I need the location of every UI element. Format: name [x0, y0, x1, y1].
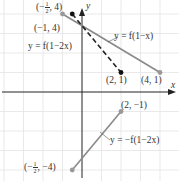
curve-f-1-minus-x	[63, 14, 161, 73]
label-point-4-1: (4, 1)	[141, 76, 162, 86]
curve-f-1-minus-2x	[72, 14, 121, 73]
label-point-2-neg1: (2, −1)	[121, 101, 147, 111]
y-axis-label: y	[86, 2, 90, 12]
x-axis-label: x	[171, 81, 175, 91]
point-neghalf-neg4	[70, 168, 75, 173]
graph-canvas	[0, 0, 179, 181]
label-curve-f-1-minus-x: y = f(1−x)	[114, 32, 153, 42]
point-neghalf-4	[70, 12, 75, 17]
label-curve-f-1-minus-2x: y = f(1−2x)	[28, 42, 72, 52]
label-point-2-1: (2, 1)	[106, 76, 127, 86]
label-curve-neg-f-1-minus-2x: y = −f(1−2x)	[110, 136, 159, 146]
y-axis-arrow-icon	[79, 8, 85, 16]
label-point-neg1-4: (−1, 4)	[34, 24, 60, 34]
grid	[0, 0, 179, 181]
label-point-neghalf-4: (−12, 4)	[36, 1, 62, 14]
label-point-neghalf-neg4: (−12, −4)	[24, 161, 56, 174]
